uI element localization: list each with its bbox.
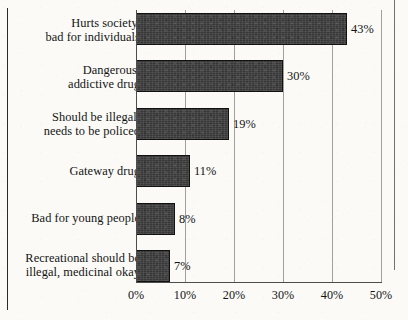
xtick-label-20: 20% [214, 288, 254, 302]
category-label-4: Bad for young people [31, 212, 140, 226]
bar-4 [136, 203, 175, 235]
bar-2 [136, 108, 229, 140]
page-rule-left [7, 8, 8, 310]
plot-area [136, 10, 381, 282]
xtick-label-40: 40% [312, 288, 352, 302]
bar-value-0: 43% [351, 22, 374, 36]
bar-0 [136, 13, 347, 45]
bar-1 [136, 60, 283, 92]
category-label-2: Should be illegal, needs to be policed [44, 111, 140, 138]
gridline-50 [381, 10, 382, 282]
xtick-label-10: 10% [165, 288, 205, 302]
gridline-20 [234, 10, 235, 282]
bar-value-3: 11% [194, 164, 216, 178]
bar-5 [136, 250, 170, 282]
category-label-1: Dangerous, addictive drug [68, 64, 140, 91]
xtick-label-0: 0% [116, 288, 156, 302]
y-axis-line [136, 10, 137, 283]
xtick-label-50: 50% [361, 288, 401, 302]
gridline-30 [283, 10, 284, 282]
gridline-10 [185, 10, 186, 282]
bar-value-5: 7% [174, 259, 191, 273]
page-rule-right [394, 0, 395, 270]
category-label-5: Recreational should be illegal, medicina… [25, 252, 140, 279]
bar-value-2: 19% [233, 117, 256, 131]
x-axis-line [136, 282, 382, 283]
horizontal-bar-chart: Hurts society, bad for individuals Dange… [0, 0, 408, 320]
bar-value-4: 8% [179, 212, 196, 226]
bar-3 [136, 155, 190, 187]
bar-value-1: 30% [287, 69, 310, 83]
gridline-40 [332, 10, 333, 282]
category-label-3: Gateway drug [70, 165, 140, 179]
xtick-label-30: 30% [263, 288, 303, 302]
category-label-0: Hurts society, bad for individuals [45, 17, 140, 44]
